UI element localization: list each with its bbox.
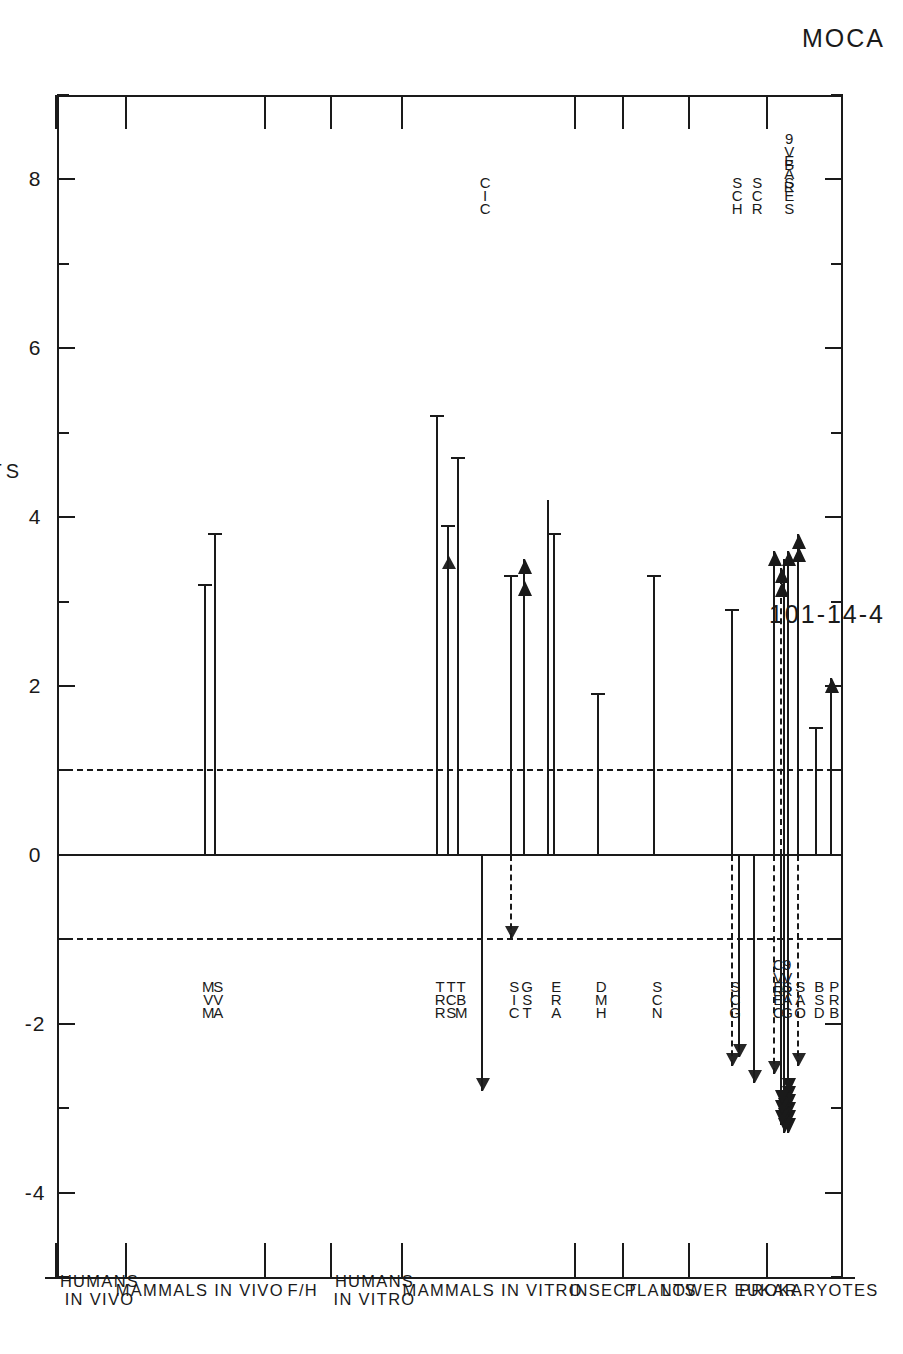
- value-tick: [57, 516, 75, 518]
- value-tick: [825, 178, 843, 180]
- category-separator: [264, 95, 266, 129]
- category-separator: [574, 95, 576, 129]
- data-bar: [524, 559, 526, 855]
- bar-end-cap: [591, 693, 605, 695]
- value-tick: [57, 432, 69, 434]
- bar-chevron: [476, 1078, 490, 1091]
- value-tick: [57, 263, 69, 265]
- data-bar: [753, 855, 755, 1083]
- plot-frame: [57, 95, 843, 1277]
- bar-arrowhead: [519, 581, 533, 596]
- value-tick: [831, 263, 843, 265]
- value-tick-label: 2: [15, 674, 55, 698]
- data-bar: [457, 458, 459, 855]
- data-bar: [780, 568, 782, 855]
- data-bar: [797, 855, 799, 1066]
- category-separator: [841, 95, 843, 129]
- assay-code-label: CIC: [478, 176, 494, 215]
- value-tick-label: 6: [15, 336, 55, 360]
- category-separator-right: [688, 1243, 690, 1279]
- category-separator: [55, 95, 57, 129]
- category-label: HUMANSIN VIVO: [0, 1272, 215, 1309]
- bar-end-cap: [451, 457, 465, 459]
- assay-code-label: CVR: [770, 958, 786, 997]
- value-tick: [57, 601, 69, 603]
- assay-code-label: PRB: [827, 980, 843, 1019]
- bar-end-cap: [809, 727, 823, 729]
- data-bar: [436, 416, 438, 855]
- data-bar: [830, 678, 832, 855]
- data-bar: [481, 855, 483, 1091]
- category-separator: [125, 95, 127, 129]
- value-tick: [825, 1192, 843, 1194]
- bar-chevron: [792, 1053, 806, 1066]
- data-bar: [797, 534, 799, 855]
- data-bar: [204, 585, 206, 855]
- value-tick: [831, 1107, 843, 1109]
- data-bar: [738, 855, 740, 1058]
- value-tick-label: 0: [15, 843, 55, 867]
- assay-code-label: SCR: [749, 176, 765, 215]
- category-separator-right: [841, 1243, 843, 1279]
- bar-arrowhead: [825, 678, 839, 693]
- bar-end-cap: [198, 584, 212, 586]
- assay-code-label: SIC: [507, 980, 523, 1019]
- value-tick: [825, 1023, 843, 1025]
- value-axis-title: LOG DOSE UNITS: [0, 460, 23, 483]
- assay-code-label: DMH: [593, 980, 609, 1019]
- category-separator: [622, 95, 624, 129]
- value-tick: [57, 1192, 75, 1194]
- rotated-figure-canvas: MOCA 101-14-4 86420-2-4 PROKARYOTESLOWER…: [0, 0, 903, 1354]
- bar-chevron: [748, 1070, 762, 1083]
- data-bar: [773, 551, 775, 855]
- data-bar: [783, 559, 785, 855]
- assay-code-label: SCH: [729, 176, 745, 215]
- value-tick: [57, 1023, 75, 1025]
- reference-line: [57, 938, 843, 940]
- value-tick: [831, 432, 843, 434]
- data-bar: [553, 534, 555, 855]
- bar-arrowhead: [775, 568, 789, 583]
- bar-arrowhead: [519, 559, 533, 574]
- data-bar: [815, 728, 817, 855]
- category-separator-right: [622, 1243, 624, 1279]
- zero-baseline: [57, 854, 843, 856]
- value-tick-label: -2: [15, 1012, 55, 1036]
- data-bar: [214, 534, 216, 855]
- data-bar: [653, 576, 655, 855]
- bar-chevron: [768, 1061, 782, 1074]
- assay-code-label: TRR: [433, 980, 449, 1019]
- category-separator: [688, 95, 690, 129]
- value-tick: [825, 347, 843, 349]
- bar-arrowhead: [775, 1090, 789, 1105]
- value-tick-label: -4: [15, 1181, 55, 1205]
- assay-code-label: SCN: [649, 980, 665, 1019]
- value-tick: [831, 601, 843, 603]
- category-separator-right: [574, 1243, 576, 1279]
- data-bar: [597, 694, 599, 854]
- category-separator: [330, 95, 332, 129]
- bar-chevron: [733, 1044, 747, 1057]
- category-separator: [401, 95, 403, 129]
- bar-arrowhead: [775, 582, 789, 597]
- data-bar: [510, 576, 512, 855]
- chemical-name: MOCA: [802, 24, 885, 53]
- assay-code-label: SCG: [728, 980, 744, 1019]
- assay-code-label: BSD: [811, 980, 827, 1019]
- category-separator: [766, 95, 768, 129]
- assay-code-label: ERA: [548, 980, 564, 1019]
- bar-arrowhead: [768, 551, 782, 566]
- data-bar: [547, 500, 549, 855]
- bar-end-cap: [441, 525, 455, 527]
- bar-end-cap: [547, 533, 561, 535]
- bar-end-cap: [647, 575, 661, 577]
- value-tick: [57, 347, 75, 349]
- bar-end-cap: [430, 415, 444, 417]
- bar-chevron: [505, 926, 519, 939]
- assay-code-label: MVM: [201, 980, 217, 1019]
- category-separator-right: [766, 1243, 768, 1279]
- data-bar: [731, 610, 733, 855]
- value-tick: [57, 1107, 69, 1109]
- value-tick-label: 4: [15, 505, 55, 529]
- reference-line: [57, 769, 843, 771]
